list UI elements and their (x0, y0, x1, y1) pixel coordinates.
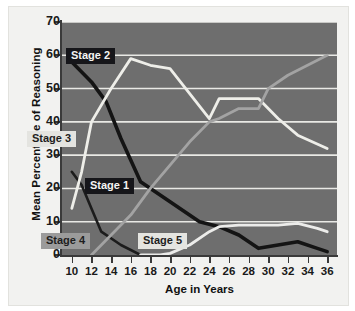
x-tick (150, 257, 152, 263)
x-tick (209, 257, 211, 263)
x-tick (268, 257, 270, 263)
x-tick (111, 257, 113, 263)
series-label-stage-1: Stage 1 (85, 178, 134, 194)
x-tick (72, 257, 74, 263)
x-tick (229, 257, 231, 263)
x-tick (190, 257, 192, 263)
x-tick-label: 36 (315, 265, 339, 277)
x-tick (249, 257, 251, 263)
x-tick (288, 257, 290, 263)
series-label-stage-4: Stage 4 (41, 233, 90, 249)
x-tick (170, 257, 172, 263)
series-label-stage-2: Stage 2 (66, 48, 115, 64)
x-tick (131, 257, 133, 263)
x-tick (308, 257, 310, 263)
x-tick (327, 257, 329, 263)
y-tick-label: 0 (24, 248, 60, 261)
x-tick (91, 257, 93, 263)
series-label-stage-3: Stage 3 (27, 131, 76, 147)
x-axis-line (60, 255, 338, 257)
chart-screenshot: 0102030405060701012141618202224262830323… (0, 0, 355, 311)
series-label-stage-5: Stage 5 (138, 233, 187, 249)
x-axis-title: Age in Years (62, 283, 337, 295)
